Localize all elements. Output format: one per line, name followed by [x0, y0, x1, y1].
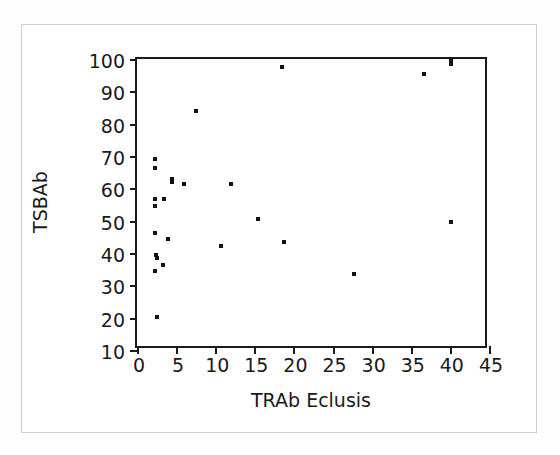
- scatter-point: [153, 166, 157, 170]
- y-axis-tick-label: 10: [101, 343, 125, 362]
- scatter-point: [153, 204, 157, 208]
- y-axis-tick: 80: [130, 124, 137, 126]
- x-axis-tick: 25: [333, 346, 335, 354]
- y-axis-tick-label: 50: [101, 213, 125, 232]
- x-axis-tick-label: 25: [322, 356, 346, 375]
- scatter-point: [449, 62, 453, 66]
- y-axis-tick-label: 100: [89, 52, 125, 71]
- x-axis-tick: 20: [293, 346, 295, 354]
- x-axis-tick-label: 40: [440, 356, 464, 375]
- y-axis-tick-label: 20: [101, 310, 125, 329]
- x-axis-tick-label: 0: [133, 356, 145, 375]
- y-axis-tick-label: 80: [101, 116, 125, 135]
- y-axis-tick: 20: [130, 318, 137, 320]
- scatter-point: [182, 182, 186, 186]
- y-axis-tick: 40: [130, 253, 137, 255]
- scatter-point: [449, 220, 453, 224]
- x-axis-tick: 10: [215, 346, 217, 354]
- scatter-point: [352, 272, 356, 276]
- x-axis-label: TRAb Eclusis: [135, 389, 487, 411]
- scatter-point: [219, 244, 223, 248]
- x-axis-tick: 45: [489, 346, 491, 354]
- scatter-point: [282, 240, 286, 244]
- x-axis-tick: 0: [137, 346, 139, 354]
- scatter-point: [153, 157, 157, 161]
- scatter-point: [155, 256, 159, 260]
- x-axis-tick-label: 35: [401, 356, 425, 375]
- scatter-point: [166, 237, 170, 241]
- scatter-point: [422, 72, 426, 76]
- y-axis-tick: 10: [130, 350, 137, 352]
- x-axis-tick-label: 15: [244, 356, 268, 375]
- y-axis-tick-label: 70: [101, 149, 125, 168]
- y-axis-label: TSBAb: [29, 171, 51, 233]
- x-axis-tick: 15: [254, 346, 256, 354]
- y-axis-tick-label: 60: [101, 181, 125, 200]
- x-axis-tick: 5: [176, 346, 178, 354]
- x-axis-tick: 30: [372, 346, 374, 354]
- x-axis-tick: 35: [411, 346, 413, 354]
- y-axis-tick: 70: [130, 156, 137, 158]
- y-axis-tick-label: 40: [101, 246, 125, 265]
- scatter-point: [280, 65, 284, 69]
- y-axis-tick-label: 90: [101, 84, 125, 103]
- scatter-point: [155, 315, 159, 319]
- scatter-point: [153, 269, 157, 273]
- scatter-point: [229, 182, 233, 186]
- plot-axes-area: 102030405060708090100 051015202530354045: [135, 57, 487, 348]
- y-axis-tick: 90: [130, 91, 137, 93]
- y-axis-tick: 100: [130, 59, 137, 61]
- x-axis-tick-label: 30: [362, 356, 386, 375]
- scatter-point: [170, 180, 174, 184]
- scatter-point: [256, 217, 260, 221]
- x-axis-tick: 40: [450, 346, 452, 354]
- scatter-point: [153, 231, 157, 235]
- x-axis-tick-label: 5: [172, 356, 184, 375]
- scatter-point: [162, 197, 166, 201]
- scatter-plot-figure: 102030405060708090100 051015202530354045…: [0, 0, 560, 455]
- x-axis-tick-label: 10: [205, 356, 229, 375]
- scatter-point: [153, 197, 157, 201]
- x-axis-tick-label: 45: [479, 356, 503, 375]
- y-axis-tick: 60: [130, 188, 137, 190]
- y-axis-tick-label: 30: [101, 278, 125, 297]
- y-axis-tick: 50: [130, 221, 137, 223]
- x-axis-tick-label: 20: [283, 356, 307, 375]
- y-axis-tick: 30: [130, 285, 137, 287]
- scatter-point: [194, 109, 198, 113]
- scatter-point: [161, 263, 165, 267]
